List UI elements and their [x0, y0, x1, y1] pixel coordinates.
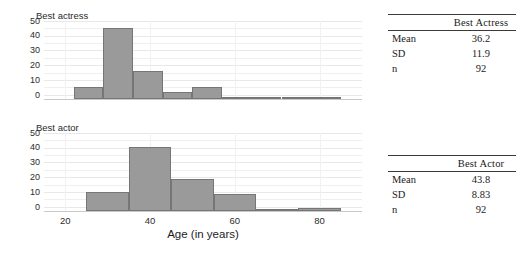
gridline-y-50	[44, 133, 362, 134]
table-header-best-actress: Best Actress	[446, 15, 516, 31]
bar-actress-1	[74, 87, 104, 100]
gridline-y-20	[44, 65, 362, 66]
gridline-x-20	[65, 21, 66, 99]
bar-actress-3	[133, 71, 163, 99]
row-label-sd: SD	[388, 187, 446, 202]
gridline-y-45	[44, 140, 362, 141]
bar-actor-1	[86, 192, 128, 211]
row-label-mean: Mean	[388, 31, 446, 47]
x-tick-80: 80	[305, 215, 335, 226]
y-tick-20: 20	[14, 173, 40, 182]
y-axis-ticks-actress: 50 40 30 20 10 0	[10, 21, 40, 99]
bar-actress-5	[192, 87, 222, 100]
row-label-sd: SD	[388, 46, 446, 61]
gridline-x-60	[235, 21, 236, 99]
bar-actor-4	[214, 194, 256, 211]
row-label-n: n	[388, 202, 446, 217]
y-tick-50: 50	[14, 129, 40, 138]
row-label-n: n	[388, 61, 446, 76]
y-tick-40: 40	[14, 31, 40, 40]
gridline-x-80	[320, 21, 321, 99]
facet-title-best-actor: Best actor	[36, 122, 79, 133]
figure-root: Best actress 50 40 30 20 10 0	[0, 0, 521, 253]
y-tick-40: 40	[14, 143, 40, 152]
table-row: SD 11.9	[388, 46, 516, 61]
gridline-y-35	[44, 155, 362, 156]
y-tick-0: 0	[14, 91, 40, 100]
y-tick-30: 30	[14, 46, 40, 55]
gridline-y-25	[44, 170, 362, 171]
row-value-mean: 36.2	[446, 31, 516, 47]
table-corner-blank	[388, 156, 446, 172]
x-axis-baseline-actor	[44, 211, 362, 212]
gridline-y-20	[44, 177, 362, 178]
y-tick-0: 0	[14, 203, 40, 212]
stats-table-best-actor: Best Actor Mean 43.8 SD 8.83 n 92	[388, 155, 516, 217]
gridline-y-30	[44, 50, 362, 51]
plot-area-best-actor	[44, 133, 362, 211]
row-value-sd: 11.9	[446, 46, 516, 61]
table-corner-blank	[388, 15, 446, 31]
row-label-mean: Mean	[388, 172, 446, 188]
row-value-sd: 8.83	[446, 187, 516, 202]
row-value-mean: 43.8	[446, 172, 516, 188]
x-tick-40: 40	[135, 215, 165, 226]
x-tick-60: 60	[220, 215, 250, 226]
gridline-y-15	[44, 73, 362, 74]
row-value-n: 92	[446, 61, 516, 76]
x-tick-20: 20	[50, 215, 80, 226]
gridline-y-50	[44, 21, 362, 22]
gridline-x-80	[320, 133, 321, 211]
bar-actor-3	[171, 179, 213, 211]
gridline-y-30	[44, 162, 362, 163]
gridline-y-40	[44, 148, 362, 149]
x-axis-label: Age (in years)	[44, 228, 362, 240]
gridline-y-25	[44, 58, 362, 59]
chart-panel-best-actor: Best actor 50 40 30 20 10 0	[0, 124, 380, 224]
y-tick-10: 10	[14, 188, 40, 197]
x-axis-baseline-actress	[44, 99, 362, 100]
y-tick-20: 20	[14, 61, 40, 70]
table-header-best-actor: Best Actor	[446, 156, 516, 172]
table-row: Mean 36.2	[388, 31, 516, 47]
gridline-y-35	[44, 43, 362, 44]
y-axis-ticks-actor: 50 40 30 20 10 0	[10, 133, 40, 211]
stats-table-best-actress: Best Actress Mean 36.2 SD 11.9 n 92	[388, 14, 516, 76]
table-row: Mean 43.8	[388, 172, 516, 188]
bar-actress-4	[163, 92, 193, 99]
plot-area-best-actress	[44, 21, 362, 99]
gridline-y-45	[44, 28, 362, 29]
table-row: n 92	[388, 202, 516, 217]
facet-title-best-actress: Best actress	[36, 10, 88, 21]
chart-panel-best-actress: Best actress 50 40 30 20 10 0	[0, 12, 380, 112]
bar-actress-2	[103, 28, 133, 99]
y-tick-50: 50	[14, 17, 40, 26]
gridline-x-20	[65, 133, 66, 211]
table-row: SD 8.83	[388, 187, 516, 202]
bar-actor-2	[129, 147, 171, 211]
table-row: n 92	[388, 61, 516, 76]
y-tick-10: 10	[14, 76, 40, 85]
y-tick-30: 30	[14, 158, 40, 167]
gridline-y-40	[44, 36, 362, 37]
gridline-y-10	[44, 80, 362, 81]
row-value-n: 92	[446, 202, 516, 217]
